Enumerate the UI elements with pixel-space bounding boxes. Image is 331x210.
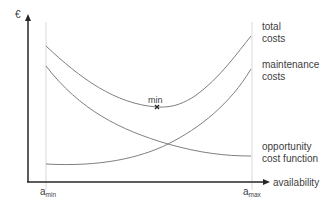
x-axis-label: availability (273, 177, 319, 189)
y-axis-arrow-icon (25, 14, 31, 21)
a-max-subscript: max (249, 191, 261, 198)
total-costs-label-line2: costs (262, 33, 285, 45)
maintenance-costs-curve (46, 69, 251, 165)
opportunity-cost-curve (46, 66, 251, 156)
a-min-subscript: min (46, 191, 56, 198)
maintenance-costs-label-line2: costs (262, 71, 285, 83)
min-label: min (148, 94, 163, 106)
a-max-tick-label: amax (243, 186, 261, 201)
opportunity-cost-label-line1: opportunity (262, 141, 311, 153)
total-costs-label-line1: total (262, 21, 281, 33)
opportunity-cost-label-line2: cost function (262, 153, 318, 165)
a-min-tick-label: amin (40, 186, 56, 201)
x-axis-arrow-icon (263, 179, 270, 185)
maintenance-costs-label-line1: maintenance (262, 59, 319, 71)
y-axis-label: € (15, 9, 21, 21)
